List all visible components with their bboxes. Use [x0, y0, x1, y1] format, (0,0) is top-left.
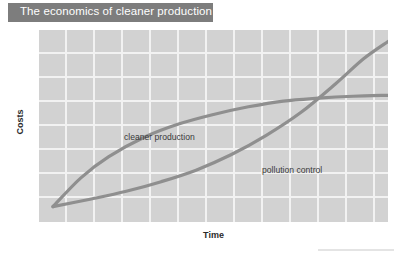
chart-figure: cleaner production pollution control Cos…: [0, 0, 394, 256]
plot-area: [39, 30, 388, 222]
series-line-cleaner-production: [53, 95, 388, 206]
x-axis-label: Time: [39, 230, 388, 240]
series-label-cleaner-production: cleaner production: [124, 132, 195, 142]
footer-rule: [318, 249, 394, 251]
series-label-pollution-control: pollution control: [262, 165, 322, 175]
y-axis-label: Costs: [15, 95, 25, 149]
series-line-pollution-control: [53, 42, 388, 207]
series-lines: [39, 30, 388, 222]
